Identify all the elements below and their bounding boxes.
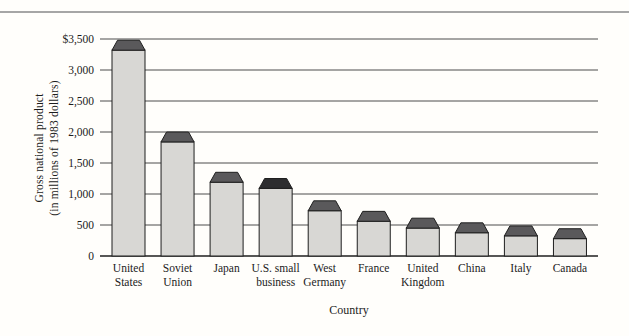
x-tick-label-west-germany-line1: West (313, 262, 337, 274)
x-tick-label-italy-line1: Italy (510, 262, 531, 275)
bar-united-kingdom (406, 228, 439, 256)
bar-cap-japan (210, 172, 243, 182)
y-tick-label-500: 500 (77, 219, 95, 231)
bar-u-s-small-business (259, 188, 292, 256)
x-tick-label-soviet-union-line2: Union (163, 276, 192, 288)
x-tick-label-united-states-line2: States (115, 276, 143, 288)
bar-china (455, 233, 488, 256)
bar-japan (210, 182, 243, 256)
y-tick-label-1500: 1,500 (68, 157, 94, 170)
bar-soviet-union (161, 142, 194, 256)
x-tick-label-west-germany-line2: Germany (303, 276, 346, 289)
x-tick-label-china-line1: China (458, 262, 485, 274)
bar-cap-france (357, 211, 390, 221)
gnp-figure: 05001,0001,5002,0002,5003,000$3,500Unite… (0, 0, 629, 336)
bar-cap-united-kingdom (406, 218, 439, 228)
y-tick-label-3500: $3,500 (62, 33, 94, 46)
bar-cap-west-germany (308, 201, 341, 211)
y-tick-label-2000: 2,000 (68, 126, 94, 139)
y-tick-label-3000: 3,000 (68, 64, 94, 77)
bar-cap-united-states (112, 40, 145, 50)
bar-italy (504, 236, 537, 256)
x-tick-label-japan-line1: Japan (214, 262, 240, 275)
x-tick-label-united-states-line1: United (113, 262, 145, 274)
bar-cap-soviet-union (161, 132, 194, 142)
x-tick-label-u-s-small-business-line2: business (256, 276, 296, 288)
bar-cap-u-s-small-business (259, 179, 292, 189)
x-tick-label-united-kingdom-line1: United (407, 262, 439, 274)
bar-cap-italy (504, 226, 537, 236)
x-tick-label-france-line1: France (358, 262, 389, 274)
bar-france (357, 221, 390, 256)
y-tick-label-0: 0 (88, 250, 94, 262)
x-tick-label-soviet-union-line1: Soviet (163, 262, 193, 274)
y-tick-label-2500: 2,500 (68, 95, 94, 108)
bar-united-states (112, 50, 145, 256)
y-axis-title-line1: Gross national product (32, 80, 47, 215)
y-axis-title-line2: (in millions of 1983 dollars) (47, 80, 62, 215)
bar-cap-canada (553, 229, 586, 239)
y-axis-title: Gross national product (in millions of 1… (32, 80, 62, 215)
x-tick-label-u-s-small-business-line1: U.S. small (252, 262, 300, 274)
bar-west-germany (308, 211, 341, 256)
x-tick-label-united-kingdom-line2: Kingdom (401, 276, 445, 289)
bar-cap-china (455, 223, 488, 233)
x-axis-title: Country (100, 303, 598, 318)
x-tick-label-canada-line1: Canada (553, 262, 587, 274)
gnp-bar-chart: 05001,0001,5002,0002,5003,000$3,500Unite… (0, 0, 629, 336)
bar-canada (553, 239, 586, 256)
y-tick-label-1000: 1,000 (68, 188, 94, 201)
